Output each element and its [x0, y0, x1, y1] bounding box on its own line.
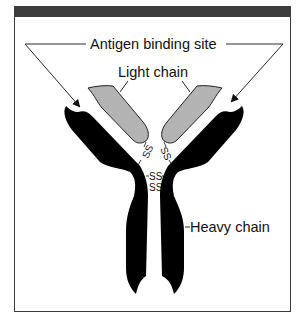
svg-text:SS: SS	[158, 145, 174, 162]
disulfide-bond-left-arm: SS	[138, 142, 156, 165]
hinge-ss-upper: SS	[149, 171, 163, 182]
fc-base-gap	[146, 277, 164, 295]
antigen-binding-site-label: Antigen binding site	[90, 36, 217, 52]
antibody-diagram: Antigen binding site Light chain SS SS S…	[0, 0, 299, 325]
disulfide-bond-right-arm: SS	[158, 142, 174, 165]
antigen-binding-site-callout-left	[25, 44, 86, 106]
heavy-chain-label: Heavy chain	[190, 219, 270, 235]
svg-text:SS: SS	[140, 143, 156, 160]
light-chain-label: Light chain	[118, 64, 188, 80]
light-chain-leader-left	[120, 81, 128, 92]
hinge-ss-lower: SS	[149, 182, 163, 193]
scan-artifact	[0, 233, 3, 238]
antigen-binding-site-callout-right	[226, 44, 283, 101]
light-chain-leader-right	[182, 81, 190, 92]
